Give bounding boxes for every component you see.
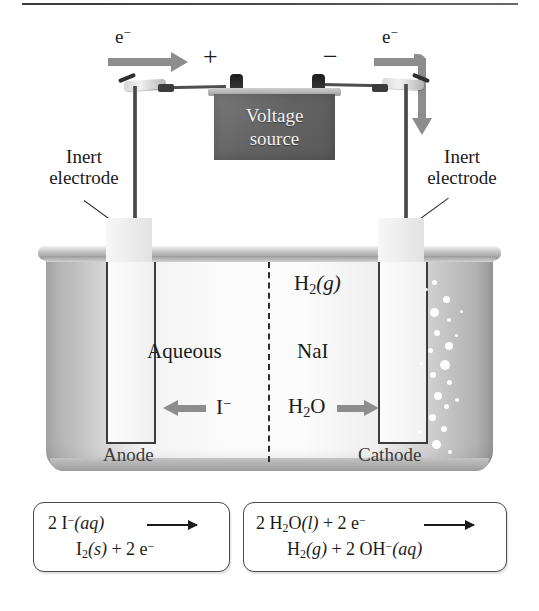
- bubble: [460, 310, 463, 313]
- anode-equation-line-1: 2 I−(aq): [48, 513, 104, 534]
- alligator-clip-right-grip: [372, 84, 388, 92]
- aqueous-label: Aqueous: [147, 340, 222, 364]
- electrode-plate-left-top: [106, 218, 152, 264]
- positive-terminal-label: +: [203, 42, 218, 71]
- inert-electrode-label-right-line2: electrode: [414, 167, 510, 188]
- bubble: [428, 348, 433, 353]
- inert-electrode-label-right-line1: Inert: [414, 146, 510, 167]
- compartment-divider: [268, 262, 270, 462]
- hydrogen-gas-label: H2(g): [294, 272, 341, 297]
- bubble: [429, 414, 436, 421]
- anode-equation-line-2: I2(s) + 2 e−: [76, 539, 154, 562]
- nai-label: NaI: [297, 340, 328, 364]
- inert-electrode-label-left-line2: electrode: [36, 167, 132, 188]
- inert-electrode-label-left: Inert electrode: [36, 146, 132, 189]
- iodide-ion-label: I−: [216, 395, 231, 420]
- electrolysis-figure: e− e− + − Voltage source Inert electrode…: [0, 0, 539, 611]
- anode-reaction-arrow: [147, 524, 197, 526]
- bubble: [434, 330, 440, 336]
- electron-label-left: e−: [115, 26, 131, 47]
- bubble: [441, 426, 447, 432]
- bubble: [418, 430, 422, 434]
- bubble: [444, 404, 449, 409]
- inert-electrode-label-left-line1: Inert: [36, 146, 132, 167]
- electron-flow-arrowhead-right: [412, 118, 432, 135]
- cathode-label: Cathode: [358, 444, 421, 465]
- bubble: [447, 318, 451, 322]
- voltage-source-line-2: source: [214, 127, 335, 150]
- cathode-equation-line-2: H2(g) + 2 OH−(aq): [287, 539, 422, 562]
- iodide-migration-arrow: [178, 405, 206, 412]
- electron-flow-arrow-left: [108, 58, 172, 66]
- bubble: [455, 334, 458, 337]
- bubble: [447, 380, 452, 385]
- negative-terminal-label: −: [323, 42, 338, 71]
- bubble: [430, 372, 436, 378]
- bubble: [448, 450, 452, 454]
- bubble: [432, 280, 437, 285]
- bubble: [440, 360, 450, 370]
- water-label: H2O: [288, 395, 325, 420]
- inert-electrode-label-right: Inert electrode: [414, 146, 510, 189]
- electron-flow-arrow-right-vertical: [418, 58, 426, 122]
- cathode-equation-line-1: 2 H2O(l) + 2 e−: [256, 513, 366, 536]
- voltage-source-line-1: Voltage: [214, 104, 335, 127]
- bubble: [432, 440, 441, 449]
- electrode-plate-right-top: [378, 218, 424, 264]
- cathode-reaction-arrow: [424, 524, 474, 526]
- top-divider-rule: [22, 3, 518, 5]
- anode-label: Anode: [103, 444, 154, 465]
- electron-label-right: e−: [382, 26, 398, 47]
- voltage-source-label: Voltage source: [214, 104, 335, 150]
- bubble: [434, 392, 442, 400]
- bubble: [455, 398, 459, 402]
- bubble: [420, 362, 423, 365]
- bubble: [425, 288, 428, 291]
- alligator-clip-left-grip: [158, 84, 174, 92]
- bubble: [430, 308, 439, 317]
- alligator-clip-right: [382, 78, 424, 90]
- electrode-plate-right: [378, 262, 428, 444]
- water-migration-arrow: [337, 405, 365, 412]
- bubble: [443, 296, 450, 303]
- bubble: [445, 342, 453, 350]
